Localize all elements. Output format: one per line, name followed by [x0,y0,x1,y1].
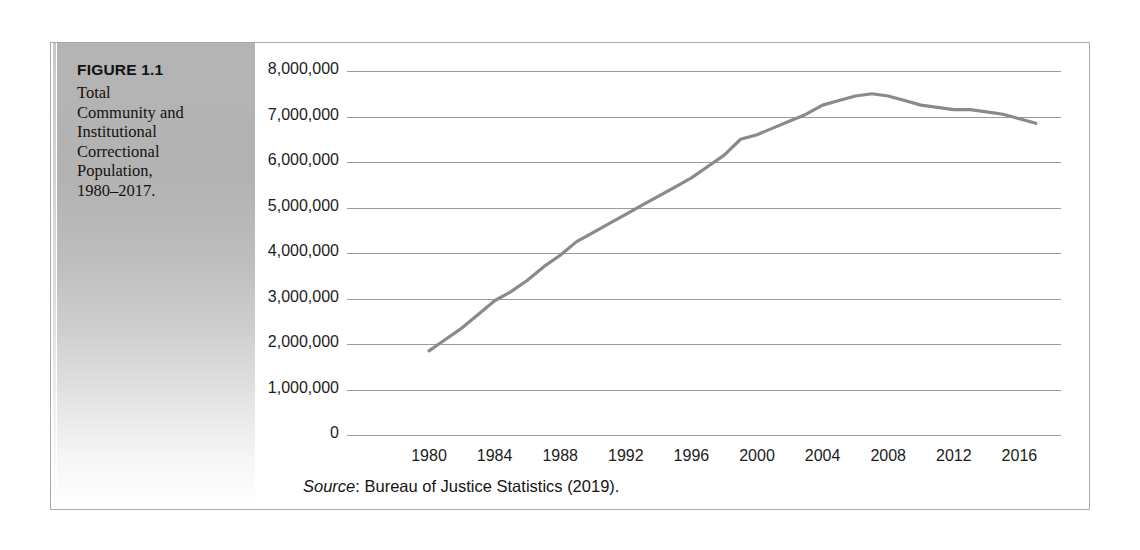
figure-frame: FIGURE 1.1 Total Community and Instituti… [50,42,1090,510]
caption-text-block: FIGURE 1.1 Total Community and Instituti… [77,61,237,200]
chart-source-note: Source: Bureau of Justice Statistics (20… [303,477,619,496]
chart-series-layer [255,43,1091,509]
series-line-total-correctional-population [429,94,1036,351]
source-label: Source [303,477,355,495]
figure-number-label: FIGURE 1.1 [77,61,237,79]
chart-plot-area: 8,000,0007,000,0006,000,0005,000,0004,00… [255,43,1091,509]
source-citation: Bureau of Justice Statistics (2019). [364,477,619,495]
figure-caption-text: Total Community and Institutional Correc… [77,83,185,200]
